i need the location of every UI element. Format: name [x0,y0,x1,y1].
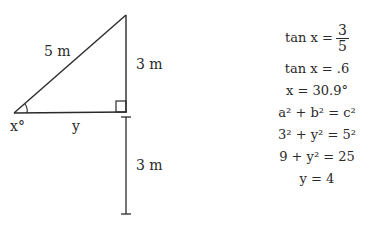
equations-column: tan x =35 tan x = .6 x = 30.9° a² + b² =… [262,18,372,190]
equation-substitution: 3² + y² = 5² [262,124,372,146]
equation-tan-decimal: tan x = .6 [262,58,372,80]
equation-lhs: tan x = [285,30,333,45]
vertical-side-label: 3 m [136,57,163,71]
equation-angle: x = 30.9° [262,80,372,102]
fraction: 35 [336,23,349,54]
base-label: y [72,119,80,133]
right-angle-marker [116,101,126,112]
hypotenuse-label: 5 m [44,44,71,58]
equation-simplified: 9 + y² = 25 [262,146,372,168]
angle-label: x° [10,119,25,133]
fraction-numerator: 3 [336,23,349,39]
equation-tan-fraction: tan x =35 [262,18,372,58]
base-line [14,112,127,113]
angle-arc [25,104,27,113]
extension-label: 3 m [136,158,163,172]
equation-pythagorean: a² + b² = c² [262,102,372,124]
fraction-denominator: 5 [336,39,349,54]
equation-result: y = 4 [262,168,372,190]
hypotenuse-line [14,15,126,113]
